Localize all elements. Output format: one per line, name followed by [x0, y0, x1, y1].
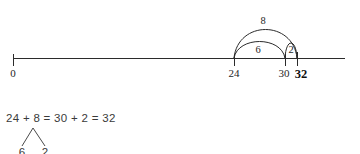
arc-label-2: 2 — [288, 44, 293, 55]
arc-label-8: 8 — [260, 15, 265, 26]
tree-branch-left — [22, 128, 33, 146]
arc-label-6: 6 — [255, 44, 260, 55]
tick-label-0: 0 — [10, 67, 16, 79]
tree-label-right: 2 — [42, 146, 48, 154]
number-line-diagram: 0 24 30 32 8 6 2 24 + 8 = 30 + 2 = 32 6 … — [0, 0, 360, 154]
tree-branch-right — [33, 128, 45, 146]
tick-label-32: 32 — [295, 67, 308, 81]
tick-label-30: 30 — [279, 67, 291, 79]
tree-label-left: 6 — [19, 146, 25, 154]
equation-text: 24 + 8 = 30 + 2 = 32 — [6, 112, 116, 124]
math-number-line-figure: 0 24 30 32 8 6 2 24 + 8 = 30 + 2 = 32 6 … — [0, 0, 360, 154]
tick-label-24: 24 — [229, 67, 241, 79]
